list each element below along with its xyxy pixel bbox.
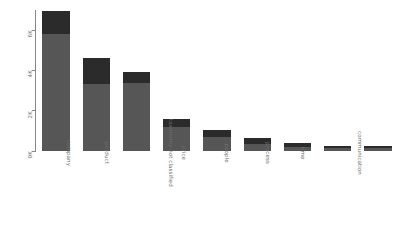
x-axis-tick-label: process bbox=[265, 142, 271, 164]
bar-segment-top[interactable] bbox=[203, 130, 230, 137]
bar-segment-base[interactable] bbox=[83, 84, 110, 151]
y-axis-tick-label: 4K bbox=[27, 70, 33, 78]
bar-group[interactable] bbox=[284, 143, 311, 151]
bar-segment-top[interactable] bbox=[364, 146, 391, 149]
bar-group[interactable] bbox=[123, 72, 150, 151]
bar-group[interactable] bbox=[42, 11, 69, 151]
x-axis-tick-label: taxonomy not classified bbox=[167, 119, 173, 187]
bar-segment-base[interactable] bbox=[123, 83, 150, 151]
x-axis-tick-label: people bbox=[224, 143, 230, 162]
y-axis-tick-label: 0K bbox=[27, 151, 33, 159]
plot-area bbox=[36, 10, 398, 151]
x-axis-tick-label: company bbox=[66, 140, 72, 166]
x-axis-tick-label: price bbox=[181, 146, 187, 160]
bar-segment-base[interactable] bbox=[324, 148, 351, 151]
bar-segment-base[interactable] bbox=[364, 148, 391, 151]
bar-group[interactable] bbox=[364, 146, 391, 151]
bar-chart: 0K2K4K6K companyproducttaxonomy not clas… bbox=[0, 0, 405, 250]
bar-segment-top[interactable] bbox=[83, 58, 110, 83]
x-axis-tick-label: communication bbox=[357, 131, 363, 175]
bar-segment-top[interactable] bbox=[42, 11, 69, 34]
bar-segment-top[interactable] bbox=[284, 143, 311, 147]
x-axis-labels: companyproducttaxonomy not classifiedpri… bbox=[36, 153, 398, 248]
x-axis-tick-label: time bbox=[301, 147, 307, 160]
bar-group[interactable] bbox=[324, 146, 351, 151]
bar-segment-base[interactable] bbox=[284, 147, 311, 151]
x-axis-tick-label: product bbox=[104, 142, 110, 164]
bar-segment-top[interactable] bbox=[324, 146, 351, 149]
bar-group[interactable] bbox=[83, 58, 110, 151]
y-axis-tick-label: 2K bbox=[27, 111, 33, 119]
y-axis-tick-label: 6K bbox=[27, 30, 33, 38]
bar-segment-top[interactable] bbox=[123, 72, 150, 82]
bar-segment-base[interactable] bbox=[42, 34, 69, 151]
